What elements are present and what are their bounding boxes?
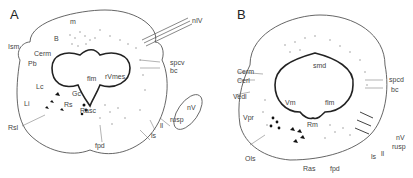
label-lc: Lc — [36, 83, 43, 90]
label-spcd: spcd — [389, 76, 404, 83]
label-rusp: rusp — [170, 116, 184, 123]
label-fpd: fpd — [330, 165, 340, 172]
label-ll: ll — [160, 122, 163, 129]
label-cerm: Cerm — [237, 68, 254, 75]
label-vm: Vm — [285, 99, 296, 106]
label-nv: nV — [396, 134, 405, 141]
label-vpr: Vpr — [243, 114, 254, 121]
label-ls: ls — [151, 132, 156, 139]
panel-letter-a: A — [10, 8, 19, 21]
label-spcv: spcv — [170, 59, 184, 66]
label-vedl: Vedl — [233, 93, 247, 100]
label-bc: bc — [170, 67, 177, 74]
panel-letter-b: B — [237, 8, 246, 21]
label-rs: Rs — [64, 101, 73, 108]
label-b: B — [54, 35, 59, 42]
label-pb: Pb — [28, 60, 37, 67]
label-ll: ll — [381, 150, 384, 157]
label-rsl: Rsl — [8, 124, 18, 131]
label-bc: bc — [391, 86, 398, 93]
brainstem-section-a-drawing — [0, 0, 210, 178]
label-ras: Ras — [303, 165, 315, 172]
label-ls: ls — [371, 153, 376, 160]
label-flm: flm — [325, 99, 334, 106]
label-rvmes: rVmes — [105, 73, 125, 80]
label-ism: Ism — [8, 43, 19, 50]
label-gc: Gc — [72, 90, 81, 97]
label-niv: nIV — [192, 17, 203, 24]
label-fpd: fpd — [95, 142, 105, 149]
label-flm: flm — [87, 75, 96, 82]
panel-b: B smd Cerm Cerl spcd bc Vedl Vm flm Vpr … — [205, 0, 413, 178]
panel-a: A m nIV B Ism Cerm Pb spcv bc flm rVmes … — [0, 0, 210, 178]
label-m: m — [70, 18, 76, 25]
label-li: Li — [24, 100, 29, 107]
label-rasc: Rasc — [80, 107, 96, 114]
label-cerl: Cerl — [237, 77, 250, 84]
label-ols: Ols — [245, 155, 256, 162]
label-smd: smd — [313, 62, 326, 69]
label-cerm: Cerm — [34, 50, 51, 57]
label-rm: Rm — [307, 121, 318, 128]
label-nv: nV — [187, 104, 196, 111]
label-rusp: rusp — [392, 143, 406, 150]
